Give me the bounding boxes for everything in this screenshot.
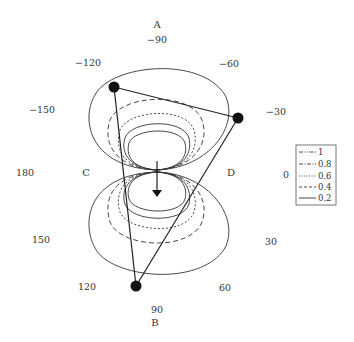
arrow-down-icon <box>152 190 162 197</box>
legend: 1 0.8 0.6 0.4 0.2 <box>296 145 336 205</box>
vertex-dot <box>131 281 142 292</box>
triangle-edge-top <box>114 87 238 118</box>
lobe-04-lower <box>108 172 204 243</box>
angle-label: 150 <box>32 234 50 245</box>
legend-label: 0.6 <box>318 171 332 181</box>
legend-label: 0.4 <box>318 182 332 192</box>
vertex-dot <box>109 82 120 93</box>
angle-label: 0 <box>283 169 289 180</box>
angle-label: −30 <box>266 106 286 117</box>
angle-label: 60 <box>219 282 231 293</box>
angle-label: −150 <box>29 104 55 115</box>
point-label-d: D <box>227 167 235 178</box>
angle-label: 30 <box>265 236 277 247</box>
vertex-dot <box>233 113 244 124</box>
legend-label: 1 <box>318 147 323 157</box>
point-label-c: C <box>82 167 90 178</box>
polar-diagram: A B C D −90 −120 −60 −150 −30 180 0 150 … <box>0 0 354 342</box>
angle-label: −90 <box>147 34 167 45</box>
point-label-a: A <box>152 19 161 30</box>
triangle-edge-right <box>136 118 238 286</box>
legend-label: 0.2 <box>318 193 332 203</box>
angle-label: −120 <box>75 57 101 68</box>
angle-label: −60 <box>219 58 239 69</box>
outer-lobe-lower <box>89 172 229 274</box>
triangle-edge-left <box>114 87 136 286</box>
point-label-b: B <box>151 317 158 328</box>
angle-label: 90 <box>151 304 163 315</box>
angle-label: 180 <box>16 167 34 178</box>
legend-label: 0.8 <box>318 159 332 169</box>
angle-label: 120 <box>78 281 96 292</box>
